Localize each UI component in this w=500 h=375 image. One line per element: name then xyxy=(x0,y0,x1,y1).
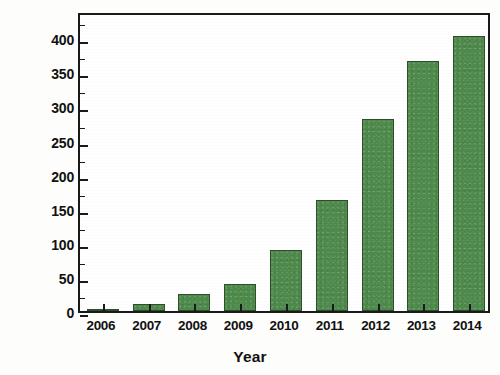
x-tick-major xyxy=(286,304,288,311)
x-tick-major xyxy=(469,304,471,311)
y-tick-major xyxy=(80,213,88,215)
y-tick-major xyxy=(80,179,88,181)
plot-area xyxy=(80,15,488,311)
y-tick-minor xyxy=(80,162,85,163)
x-tick-major xyxy=(194,304,196,311)
y-tick-minor xyxy=(80,298,85,299)
y-tick-major xyxy=(80,145,88,147)
x-axis-tick-labels: 200620072008200920102011201220132014 xyxy=(78,318,490,340)
y-tick-label: 200 xyxy=(30,169,74,185)
x-tick-major xyxy=(423,304,425,311)
y-tick-label: 300 xyxy=(30,100,74,116)
y-tick-label: 50 xyxy=(30,271,74,287)
y-axis-tick-labels: 050100150200250300350400 xyxy=(22,13,74,313)
bar-2013 xyxy=(407,61,439,311)
y-tick-label: 350 xyxy=(30,66,74,82)
y-tick-minor xyxy=(80,196,85,197)
y-tick-label: 100 xyxy=(30,237,74,253)
y-tick-major xyxy=(80,42,88,44)
y-tick-label: 150 xyxy=(30,203,74,219)
bar-2014 xyxy=(453,36,485,311)
x-tick-major xyxy=(149,304,151,311)
y-tick-major xyxy=(80,76,88,78)
bar-2010 xyxy=(270,250,302,311)
x-tick-major xyxy=(378,304,380,311)
x-tick-major xyxy=(103,304,105,311)
y-tick-label: 400 xyxy=(30,32,74,48)
y-tick-label: 0 xyxy=(30,305,74,321)
y-tick-minor xyxy=(80,25,85,26)
citations-bar-chart: Number of citations 05010015020025030035… xyxy=(0,0,500,375)
y-tick-major xyxy=(80,247,88,249)
plot-frame xyxy=(78,13,490,313)
y-tick-major xyxy=(80,110,88,112)
y-tick-minor xyxy=(80,59,85,60)
y-tick-minor xyxy=(80,93,85,94)
y-tick-minor xyxy=(80,128,85,129)
y-tick-major xyxy=(80,281,88,283)
bar-2011 xyxy=(316,200,348,311)
x-tick-label: 2014 xyxy=(440,318,494,333)
y-tick-minor xyxy=(80,230,85,231)
x-tick-major xyxy=(240,304,242,311)
y-tick-label: 250 xyxy=(30,135,74,151)
y-tick-major xyxy=(80,315,88,317)
y-tick-minor xyxy=(80,264,85,265)
x-tick-major xyxy=(332,304,334,311)
x-axis-title: Year xyxy=(0,348,500,366)
bar-2012 xyxy=(362,119,394,311)
